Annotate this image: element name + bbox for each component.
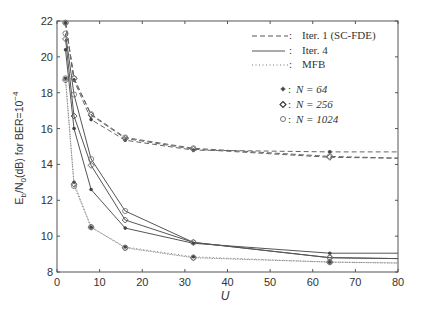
legend-dashed-label: Iter. 1 (SC-FDE)	[302, 29, 376, 42]
x-tick-label: 30	[179, 276, 191, 288]
markers-layer	[63, 20, 333, 265]
plot-frame	[57, 21, 398, 272]
series-line	[66, 78, 399, 263]
legend: : Iter. 1 (SC-FDE) : Iter. 4 : MFB : N =…	[252, 29, 376, 125]
x-tick-label: 20	[136, 276, 148, 288]
y-tick-label: 20	[41, 51, 53, 63]
legend-colon: :	[288, 98, 291, 110]
y-tick-label: 8	[47, 266, 53, 278]
series-layer	[66, 23, 399, 263]
y-tick-label: 10	[41, 230, 53, 242]
legend-star-marker	[281, 87, 286, 92]
legend-solid-label: Iter. 4	[302, 44, 328, 56]
x-tick-label: 0	[54, 276, 60, 288]
series-line	[66, 78, 399, 263]
x-tick-label: 80	[392, 276, 404, 288]
y-tick-label: 12	[41, 194, 53, 206]
star-marker	[64, 48, 68, 52]
legend-n256-label: N = 256	[295, 98, 333, 110]
legend-diamond-marker	[280, 102, 286, 108]
axes: 01020304050607080810121416182022	[41, 15, 404, 288]
svg-text:Eb/N0(dB) for BER=10−4: Eb/N0(dB) for BER=10−4	[11, 91, 28, 204]
legend-n1024-label: N = 1024	[295, 113, 339, 125]
legend-colon: :	[288, 113, 291, 125]
y-axis-label: Eb/N0(dB) for BER=10−4	[11, 91, 28, 204]
legend-colon: :	[289, 44, 292, 56]
x-tick-label: 70	[349, 276, 361, 288]
y-tick-label: 14	[41, 158, 53, 170]
chart: 01020304050607080810121416182022 : Iter.…	[0, 0, 424, 319]
series-line	[66, 23, 399, 158]
y-tick-label: 16	[41, 123, 53, 135]
legend-circle-marker	[281, 117, 286, 122]
series-line	[66, 23, 399, 158]
legend-colon: :	[288, 83, 291, 95]
x-axis-label: U	[221, 289, 230, 303]
series-line	[66, 34, 399, 259]
star-marker	[89, 188, 93, 192]
x-tick-label: 60	[307, 276, 319, 288]
x-tick-label: 10	[94, 276, 106, 288]
legend-colon: :	[289, 29, 292, 41]
legend-n64-label: N = 64	[295, 83, 328, 95]
series-line	[66, 23, 399, 152]
y-tick-label: 22	[41, 15, 53, 27]
series-line	[66, 80, 399, 263]
legend-dotted-label: MFB	[302, 58, 325, 70]
x-tick-label: 40	[221, 276, 233, 288]
star-marker	[123, 226, 127, 230]
y-tick-label: 18	[41, 87, 53, 99]
star-marker	[328, 150, 332, 154]
star-marker	[72, 127, 76, 131]
x-tick-label: 50	[264, 276, 276, 288]
legend-colon: :	[289, 58, 292, 70]
series-line	[66, 39, 399, 259]
